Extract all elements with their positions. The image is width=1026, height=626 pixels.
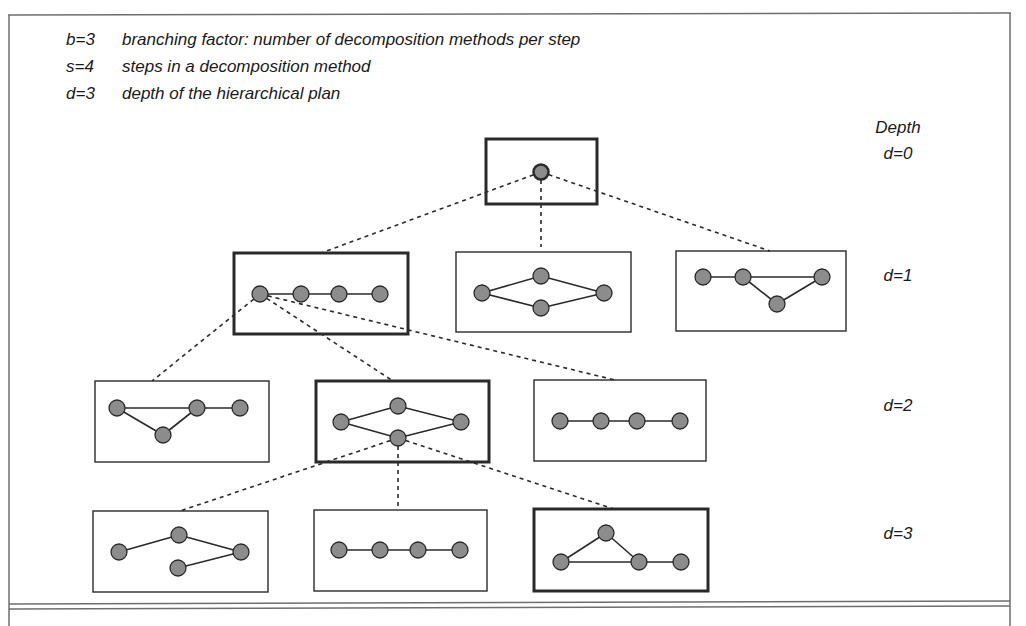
selected-method-frame <box>534 509 708 591</box>
depth-label-0: d=0 <box>858 144 938 164</box>
step-node <box>593 413 609 429</box>
step-edge <box>341 406 398 422</box>
dashed-link <box>260 294 615 380</box>
step-node <box>170 560 186 576</box>
step-node <box>596 285 612 301</box>
step-node <box>672 413 688 429</box>
step-node <box>534 165 549 180</box>
step-node <box>189 400 205 416</box>
step-edge <box>541 276 604 293</box>
depth-header: Depth <box>858 118 938 138</box>
legend-text: steps in a decomposition method <box>122 57 371 76</box>
method-box-d3-b <box>314 510 487 591</box>
method-box-d1-b <box>456 252 631 332</box>
legend-text: depth of the hierarchical plan <box>122 84 340 103</box>
dashed-link <box>541 172 770 251</box>
step-node <box>111 544 127 560</box>
step-node <box>372 286 388 302</box>
step-edge <box>541 293 604 308</box>
legend-item-branching: b=3branching factor: number of decomposi… <box>66 30 580 50</box>
step-node <box>155 427 171 443</box>
method-boxes <box>93 139 846 592</box>
method-box-d3-a <box>93 511 268 592</box>
step-edge <box>341 422 398 438</box>
step-edge <box>178 552 241 568</box>
decomposition-links <box>152 172 770 511</box>
step-node <box>410 542 426 558</box>
step-node <box>331 286 347 302</box>
depth-label-1: d=1 <box>858 266 938 286</box>
step-node <box>252 286 268 302</box>
step-node <box>553 554 569 570</box>
step-node <box>629 413 645 429</box>
legend-item-steps: s=4steps in a decomposition method <box>66 57 371 77</box>
step-edge <box>482 276 541 293</box>
dashed-link <box>260 294 393 381</box>
step-node <box>372 542 388 558</box>
method-box-d3-c <box>534 509 708 591</box>
step-edge <box>482 293 541 308</box>
step-edge <box>179 535 241 552</box>
step-edge <box>398 406 461 422</box>
dashed-link <box>152 294 260 381</box>
method-box-d1-c <box>676 251 846 331</box>
step-node <box>390 398 406 414</box>
step-node <box>331 542 347 558</box>
step-node <box>452 542 468 558</box>
step-node <box>695 269 711 285</box>
step-node <box>533 300 549 316</box>
step-node <box>598 525 614 541</box>
method-frame <box>95 381 269 462</box>
dashed-link <box>398 438 614 509</box>
legend-item-depth: d=3depth of the hierarchical plan <box>66 84 340 104</box>
step-node <box>552 413 568 429</box>
dashed-link <box>321 172 541 253</box>
method-box-root <box>486 139 597 204</box>
step-node <box>453 414 469 430</box>
step-node <box>232 400 248 416</box>
step-node <box>109 400 125 416</box>
legend-text: branching factor: number of decompositio… <box>122 30 580 49</box>
step-node <box>631 554 647 570</box>
step-edge <box>398 422 461 438</box>
method-box-d1-a <box>234 253 408 334</box>
dashed-link <box>180 438 398 511</box>
legend-key: d=3 <box>66 84 122 104</box>
step-node <box>390 430 406 446</box>
step-node <box>533 268 549 284</box>
step-node <box>769 296 785 312</box>
method-box-d2-a <box>95 381 269 462</box>
legend-key: s=4 <box>66 57 122 77</box>
step-node <box>293 286 309 302</box>
step-node <box>171 527 187 543</box>
method-box-d2-b <box>316 381 489 462</box>
step-node <box>673 554 689 570</box>
step-node <box>474 285 490 301</box>
step-node <box>333 414 349 430</box>
depth-label-3: d=3 <box>858 524 938 544</box>
method-box-d2-c <box>534 380 706 461</box>
step-edge <box>119 535 179 552</box>
legend-key: b=3 <box>66 30 122 50</box>
step-node <box>233 544 249 560</box>
step-node <box>814 269 830 285</box>
step-node <box>735 269 751 285</box>
depth-label-2: d=2 <box>858 396 938 416</box>
